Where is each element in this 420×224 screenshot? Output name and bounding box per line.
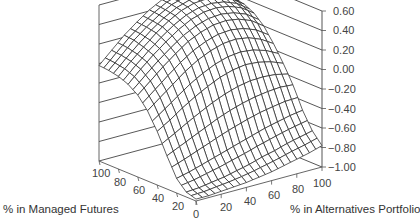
z-tick-label: −1.00 (328, 162, 356, 173)
alt-tick-label: 100 (313, 178, 331, 189)
mf-tick-label: 20 (172, 201, 184, 212)
alt-tick-label: 80 (292, 184, 304, 195)
mf-tick-label: 0 (193, 209, 199, 220)
z-tick-label: 0.00 (333, 64, 354, 75)
z-tick-label: −0.40 (328, 104, 356, 115)
x-axis-title: % in Alternatives Portfolio (290, 204, 420, 216)
z-tick-label: 0.20 (333, 45, 354, 56)
z-tick-label: 0.40 (333, 25, 354, 36)
mf-tick-label: 100 (92, 168, 110, 179)
y-axis-title: % in Managed Futures (3, 204, 119, 216)
z-tick-label: −0.20 (328, 84, 356, 95)
z-tick-label: 0.60 (333, 6, 354, 17)
surface-mesh (99, 0, 322, 199)
alt-tick-label: 40 (244, 196, 256, 207)
z-tick-label: −0.60 (328, 123, 356, 134)
alt-tick-label: 20 (220, 202, 232, 213)
mf-tick-label: 40 (152, 193, 164, 204)
mf-tick-label: 60 (133, 185, 145, 196)
mf-tick-label: 80 (114, 177, 126, 188)
alt-tick-label: 60 (268, 190, 280, 201)
z-tick-label: −0.80 (328, 143, 356, 154)
